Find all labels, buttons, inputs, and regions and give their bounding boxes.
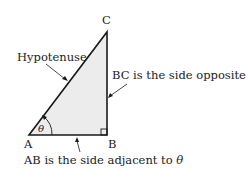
hypotenuse-label: Hypotenuse [17, 52, 87, 64]
adjacent-pointer-arrowhead [75, 137, 79, 142]
adjacent-theta: θ [176, 153, 183, 167]
hypotenuse-pointer [46, 64, 65, 79]
opposite-label: BC is the side opposite θ [112, 70, 248, 82]
opposite-pointer-arrowhead [108, 93, 113, 98]
angle-theta-label: θ [38, 124, 44, 134]
triangle-diagram [0, 0, 248, 178]
opposite-pointer [110, 84, 127, 96]
vertex-label-a: A [24, 139, 32, 151]
vertex-label-c: C [102, 15, 111, 27]
opposite-label-text: BC is the side opposite [112, 68, 248, 82]
adjacent-pointer [77, 141, 80, 152]
adjacent-label: AB is the side adjacent to θ [24, 155, 183, 167]
right-triangle [29, 32, 107, 135]
hypotenuse-pointer-arrowhead [62, 76, 68, 81]
adjacent-label-text: AB is the side adjacent to [24, 153, 176, 167]
vertex-label-b: B [108, 139, 116, 151]
